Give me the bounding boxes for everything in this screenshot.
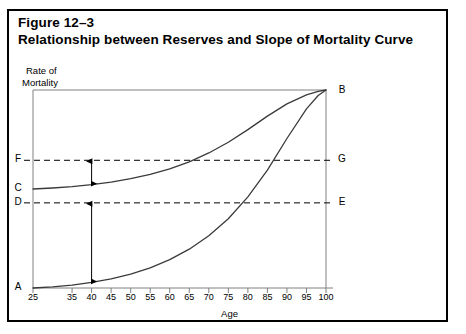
figure-container: Figure 12–3 Relationship between Reserve…: [7, 9, 448, 322]
point-label-c: C: [11, 182, 25, 193]
point-label-a: A: [11, 281, 25, 292]
point-label-b: B: [335, 84, 349, 95]
mortality-chart-plot: [9, 11, 448, 322]
curve-natural-premium-curve: [33, 90, 326, 288]
x-tick-label-25: 25: [22, 292, 44, 302]
curve-level-premium-curve: [33, 90, 326, 189]
point-label-f: F: [11, 153, 25, 164]
point-label-e: E: [335, 196, 349, 207]
x-tick-label-100: 100: [315, 292, 337, 302]
point-label-d: D: [11, 196, 25, 207]
point-label-g: G: [335, 153, 349, 164]
x-axis-title: Age: [9, 308, 448, 319]
